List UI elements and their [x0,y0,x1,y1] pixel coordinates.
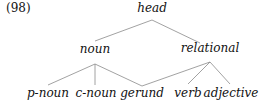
edge-noun-pnoun [48,64,95,85]
edge-relational-adjective [210,62,230,84]
edge-relational-gerund [142,62,210,86]
node-p-noun: p-noun [27,86,69,100]
node-noun: noun [80,42,110,56]
edge-head-noun [95,20,152,41]
node-verb: verb [174,86,201,100]
edge-noun-gerund [95,64,142,86]
node-c-noun: c-noun [75,86,116,100]
node-adjective: adjective [204,86,259,100]
node-gerund: gerund [120,86,164,100]
edge-relational-verb [188,62,210,84]
node-head: head [137,1,167,15]
node-relational: relational [181,41,239,55]
edge-head-relational [152,20,200,43]
